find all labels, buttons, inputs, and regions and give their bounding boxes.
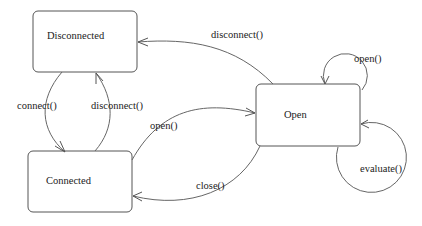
label-disconnect-open: disconnect() [211, 29, 263, 41]
transition-disconnect-from-connected: disconnect() [91, 73, 143, 151]
transition-open: open() [132, 108, 255, 160]
state-open: Open [256, 84, 360, 146]
state-connected: Connected [28, 151, 132, 212]
label-close: close() [196, 180, 225, 192]
state-label-open: Open [284, 109, 307, 120]
state-diagram: Disconnected Connected Open connect() di… [0, 0, 422, 226]
label-disconnect-connected: disconnect() [91, 100, 143, 112]
state-label-connected: Connected [46, 175, 92, 186]
transition-close: close() [133, 146, 260, 201]
label-open-self: open() [354, 53, 382, 65]
label-connect: connect() [17, 100, 57, 112]
state-disconnected: Disconnected [33, 11, 137, 72]
transition-connect: connect() [17, 72, 65, 152]
arrowhead-icon [133, 192, 142, 201]
transition-disconnect-from-open: disconnect() [138, 29, 273, 84]
state-label-disconnected: Disconnected [47, 30, 105, 41]
label-evaluate: evaluate() [360, 163, 402, 175]
label-open: open() [150, 120, 178, 132]
